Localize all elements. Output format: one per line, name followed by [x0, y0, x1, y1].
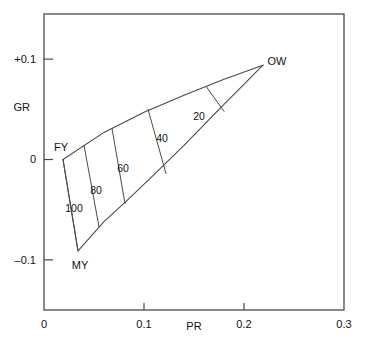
- boundary-curves: [63, 65, 263, 251]
- x-tick-label-3: 0.3: [336, 319, 351, 330]
- y-tick-label-1: 0: [30, 154, 36, 165]
- contour-label-80: 80: [90, 184, 102, 195]
- x-tick-label-0: 0: [41, 319, 47, 330]
- plot-frame: [44, 14, 344, 310]
- x-tick-label-2: 0.2: [236, 319, 251, 330]
- chart-plot-area: [0, 0, 367, 349]
- x-axis-title: PR: [186, 321, 201, 332]
- vertex-label-fy: FY: [54, 142, 68, 153]
- vertex-label-ow: OW: [268, 56, 287, 67]
- contour-label-40: 40: [156, 133, 168, 144]
- contour-label-100: 100: [65, 202, 83, 213]
- y-tick-label-2: –0.1: [15, 254, 36, 265]
- lower-boundary: [78, 65, 263, 251]
- upper-boundary: [63, 65, 263, 159]
- vertex-label-my: MY: [72, 259, 89, 270]
- x-tick-label-1: 0.1: [136, 319, 151, 330]
- contour-label-60: 60: [117, 162, 129, 173]
- plot-frame-rect: [44, 14, 344, 310]
- contour-line-20: [206, 86, 224, 111]
- chart-figure: 00.10.20.3+0.10–0.1PRGR10080604020FYMYOW: [0, 0, 367, 349]
- contour-label-20: 20: [193, 111, 205, 122]
- y-tick-label-0: +0.1: [14, 54, 36, 65]
- y-axis-title: GR: [14, 102, 31, 113]
